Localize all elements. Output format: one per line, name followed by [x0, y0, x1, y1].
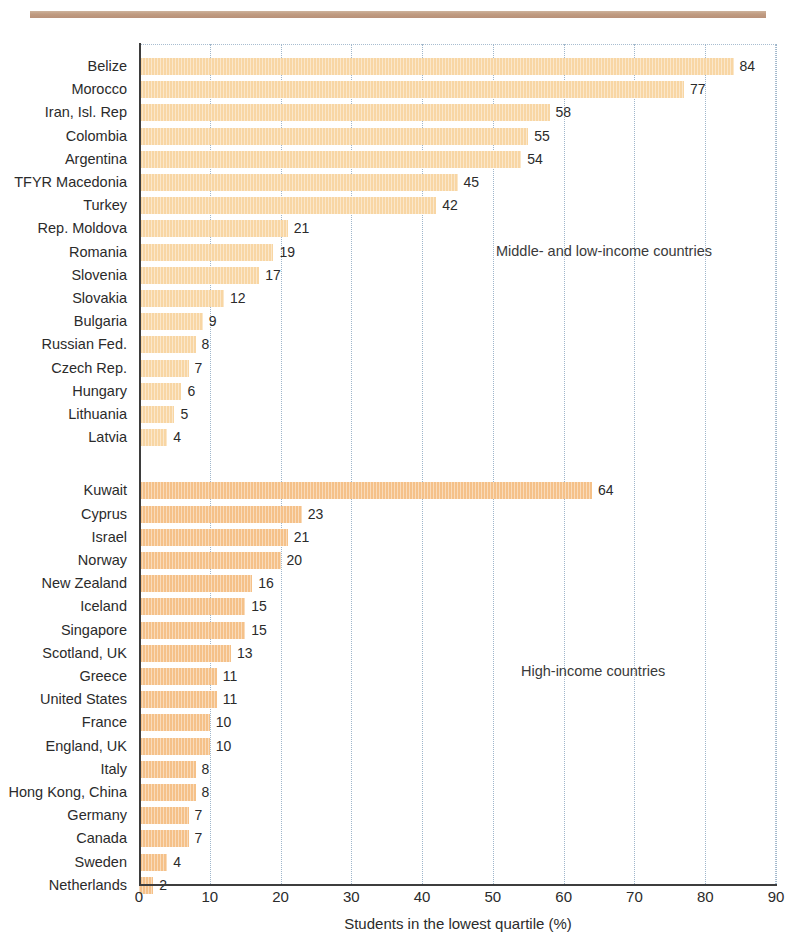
- plot-frame-top: [139, 44, 776, 45]
- bar-value-label: 11: [223, 667, 238, 685]
- category-label: Colombia: [0, 128, 127, 145]
- bar-value-label: 64: [598, 481, 614, 499]
- category-label: Bulgaria: [0, 313, 127, 330]
- bar-value-label: 5: [180, 405, 188, 423]
- bar-row: 11: [139, 691, 776, 708]
- category-label: Latvia: [0, 429, 127, 446]
- bar-value-label: 9: [209, 312, 217, 330]
- bar: [139, 313, 203, 330]
- category-label: Scotland, UK: [0, 645, 127, 662]
- category-label: New Zealand: [0, 575, 127, 592]
- bar: [139, 290, 224, 307]
- bar-row: 8: [139, 761, 776, 778]
- bar-row: 7: [139, 830, 776, 847]
- gridline-80: [705, 44, 706, 884]
- x-tick-label-20: 20: [272, 888, 289, 905]
- bar: [139, 482, 592, 499]
- bar-value-label: 54: [527, 150, 543, 168]
- figure-root: BelizeMoroccoIran, Isl. RepColombiaArgen…: [0, 0, 794, 946]
- bar: [139, 174, 458, 191]
- bar-value-label: 8: [202, 760, 210, 778]
- category-label: England, UK: [0, 738, 127, 755]
- bar-row: 13: [139, 645, 776, 662]
- bar-row: 20: [139, 552, 776, 569]
- bar-value-label: 19: [279, 243, 295, 261]
- bar: [139, 830, 189, 847]
- bar-row: 64: [139, 482, 776, 499]
- bar-row: 16: [139, 575, 776, 592]
- category-label: Norway: [0, 552, 127, 569]
- bar-value-label: 20: [287, 551, 303, 569]
- category-label: Slovenia: [0, 267, 127, 284]
- category-label: Singapore: [0, 622, 127, 639]
- clipped-figure-title: [60, 0, 620, 1]
- bar: [139, 506, 302, 523]
- gridline-30: [351, 44, 352, 884]
- gridline-60: [564, 44, 565, 884]
- x-tick-label-60: 60: [555, 888, 572, 905]
- bar-value-label: 84: [740, 57, 756, 75]
- bar-value-label: 7: [195, 829, 203, 847]
- bar-row: 6: [139, 383, 776, 400]
- gridline-50: [493, 44, 494, 884]
- bar: [139, 552, 281, 569]
- bar-value-label: 11: [223, 690, 238, 708]
- bar-row: 58: [139, 104, 776, 121]
- bar-row: 45: [139, 174, 776, 191]
- bar-row: 15: [139, 622, 776, 639]
- category-label: France: [0, 714, 127, 731]
- bar: [139, 575, 252, 592]
- x-axis-label: Students in the lowest quartile (%): [139, 915, 777, 932]
- bar-value-label: 77: [690, 80, 706, 98]
- bar-value-label: 15: [251, 621, 267, 639]
- category-label: Hungary: [0, 383, 127, 400]
- bar-value-label: 23: [308, 505, 324, 523]
- bar-row: 8: [139, 784, 776, 801]
- category-label: Romania: [0, 244, 127, 261]
- bar-value-label: 21: [294, 219, 310, 237]
- bar-value-label: 16: [258, 574, 274, 592]
- category-label: Russian Fed.: [0, 336, 127, 353]
- bar: [139, 854, 167, 871]
- bar: [139, 58, 734, 75]
- y-axis-line: [139, 43, 141, 886]
- bar: [139, 360, 189, 377]
- gridline-20: [281, 44, 282, 884]
- bar-row: 21: [139, 529, 776, 546]
- bar: [139, 151, 521, 168]
- bar-value-label: 10: [216, 713, 232, 731]
- bar-row: 21: [139, 220, 776, 237]
- bar-row: 12: [139, 290, 776, 307]
- bar-row: 17: [139, 267, 776, 284]
- category-label: Turkey: [0, 197, 127, 214]
- bar-value-label: 8: [202, 335, 210, 353]
- bar: [139, 691, 217, 708]
- x-tick-label-80: 80: [697, 888, 714, 905]
- bar-value-label: 42: [442, 196, 458, 214]
- category-label: Germany: [0, 807, 127, 824]
- category-label: Morocco: [0, 81, 127, 98]
- bar-row: 4: [139, 429, 776, 446]
- category-label: Iran, Isl. Rep: [0, 104, 127, 121]
- x-tick-label-90: 90: [768, 888, 785, 905]
- bar-row: 4: [139, 854, 776, 871]
- bar-row: 5: [139, 406, 776, 423]
- bar-row: 55: [139, 128, 776, 145]
- bar: [139, 529, 288, 546]
- bar: [139, 598, 245, 615]
- x-tick-label-10: 10: [201, 888, 218, 905]
- bar-value-label: 6: [187, 382, 195, 400]
- category-label: Greece: [0, 668, 127, 685]
- group-annotation-high-income: High-income countries: [521, 663, 665, 679]
- bar: [139, 761, 196, 778]
- x-tick-label-50: 50: [485, 888, 502, 905]
- x-axis-ticks: 0102030405060708090: [0, 888, 794, 912]
- bar-value-label: 58: [556, 103, 572, 121]
- bar-row: 54: [139, 151, 776, 168]
- x-tick-label-40: 40: [414, 888, 431, 905]
- group-annotation-middle-low-income: Middle- and low-income countries: [496, 243, 712, 259]
- gridline-70: [634, 44, 635, 884]
- x-tick-label-70: 70: [626, 888, 643, 905]
- bar: [139, 336, 196, 353]
- bar: [139, 244, 273, 261]
